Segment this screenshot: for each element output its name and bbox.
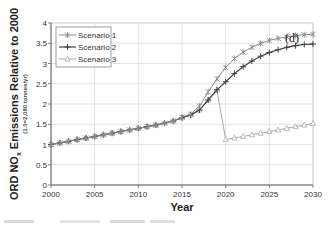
x-tick-label: 2020 bbox=[217, 190, 235, 199]
legend-label: Scenario 3 bbox=[78, 55, 117, 64]
y-tick-label: 1 bbox=[43, 141, 48, 150]
x-tick-label: 2030 bbox=[304, 190, 322, 199]
y-tick-label: 1.5 bbox=[36, 120, 48, 129]
y-tick-label: 0.5 bbox=[36, 161, 48, 170]
y-tick-label: 0 bbox=[43, 181, 48, 190]
legend-label: Scenario 2 bbox=[78, 43, 117, 52]
x-tick-label: 2025 bbox=[260, 190, 278, 199]
y-axis-subtitle: (1.0=2,080 tonnes/yr) bbox=[22, 74, 28, 134]
y-tick-label: 2 bbox=[43, 100, 48, 109]
cropped-caption-fragment bbox=[0, 216, 330, 225]
y-tick-label: 4 bbox=[43, 19, 48, 28]
legend: Scenario 1Scenario 2Scenario 3 bbox=[56, 27, 117, 67]
y-axis-label: ORD NOx Emissions Relative to 2000 (1.0=… bbox=[8, 8, 28, 200]
panel-annotation: (d) bbox=[285, 31, 299, 45]
x-tick-label: 2005 bbox=[86, 190, 104, 199]
y-axis-title: ORD NOx Emissions Relative to 2000 bbox=[8, 8, 22, 200]
legend-label: Scenario 1 bbox=[78, 31, 117, 40]
x-tick-label: 2010 bbox=[129, 190, 147, 199]
y-tick-label: 3.5 bbox=[36, 39, 48, 48]
x-axis-label: Year bbox=[170, 201, 194, 213]
y-tick-label: 2.5 bbox=[36, 80, 48, 89]
line-chart: 00.511.522.533.5420002005201020152020202… bbox=[0, 0, 330, 225]
x-tick-label: 2000 bbox=[42, 190, 60, 199]
y-tick-label: 3 bbox=[43, 60, 48, 69]
x-tick-label: 2015 bbox=[173, 190, 191, 199]
